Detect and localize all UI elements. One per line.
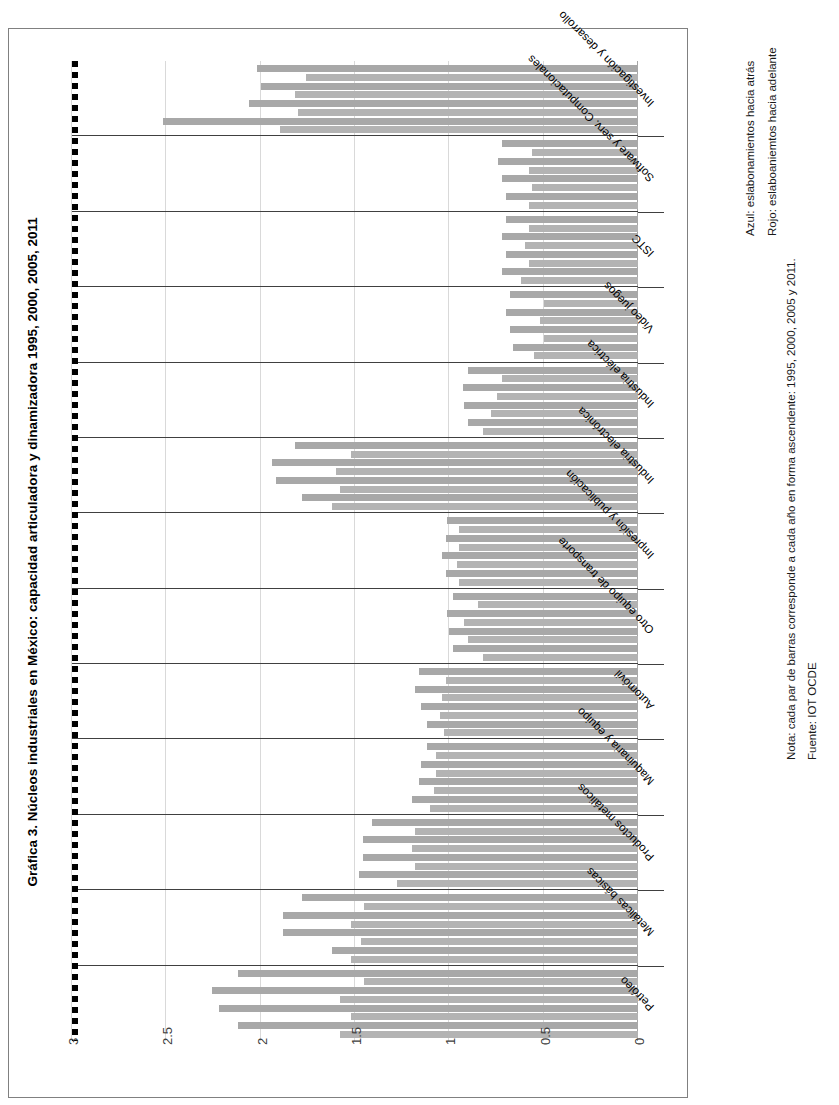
bar-autom-vil-2005-forward xyxy=(415,686,638,693)
bar-industria-electr-nica-2011-forward xyxy=(295,442,638,449)
bar-petr-leo-2005-back xyxy=(340,996,638,1003)
chart-source: Fuente: IOT OCDE xyxy=(806,662,818,760)
bar-met-licas-b-sicas-2005-back xyxy=(351,921,638,928)
bar-impresi-n-y-publicaci-n-2000-back xyxy=(457,561,638,568)
category-separator xyxy=(72,135,638,136)
gridline-2_5 xyxy=(165,61,166,1041)
chart-canvas xyxy=(72,61,638,1041)
bar-met-licas-b-sicas-1995-back xyxy=(351,956,638,963)
bar-software-y-serv-computacionales-2000-back xyxy=(532,184,638,191)
bar-met-licas-b-sicas-2005-forward xyxy=(283,912,638,919)
bar-impresi-n-y-publicaci-n-1995-forward xyxy=(446,570,638,577)
category-separator xyxy=(72,965,638,966)
bar-industria-el-ctrica-1995-forward xyxy=(468,419,638,426)
bar-otro-equipo-de-transporte-1995-forward xyxy=(453,645,638,652)
bar-met-licas-b-sicas-2000-forward xyxy=(283,929,638,936)
gridline-2 xyxy=(260,61,261,1041)
value-tick-0: 0 xyxy=(632,1038,647,1045)
bar-maquinaria-y-equipo-2011-back xyxy=(436,752,638,759)
bar-productos-met-licos-2011-forward xyxy=(372,819,638,826)
bar-software-y-serv-computacionales-2005-back xyxy=(529,167,638,174)
figure-page: Gráfica 3. Núcleos industriales en Méxic… xyxy=(0,0,839,1105)
bar-productos-met-licos-2005-forward xyxy=(363,836,638,843)
bar-video-juegos-2000-forward xyxy=(510,326,638,333)
bar-industria-el-ctrica-2005-back xyxy=(497,393,639,400)
category-tick-mark xyxy=(638,513,664,514)
bar-istc-2000-forward xyxy=(506,251,638,258)
legend-forward-label: Rojo: eslaboaniemtos hacia adelante xyxy=(766,47,778,236)
category-separator xyxy=(72,437,638,438)
bar-investigaci-n-y-desarrollo-2011-back xyxy=(306,74,638,81)
category-tick-mark xyxy=(638,815,664,816)
bar-maquinaria-y-equipo-2000-forward xyxy=(419,778,638,785)
category-tick-mark xyxy=(638,136,664,137)
value-tick-2_5: 2.5 xyxy=(160,1027,175,1045)
category-separator xyxy=(72,588,638,589)
bar-industria-electr-nica-2005-back xyxy=(336,468,638,475)
bar-petr-leo-1995-forward xyxy=(238,1022,638,1029)
bar-petr-leo-2000-back xyxy=(351,1013,638,1020)
bar-video-juegos-2005-forward xyxy=(506,309,638,316)
bar-investigaci-n-y-desarrollo-2005-forward xyxy=(261,83,638,90)
bar-software-y-serv-computacionales-2000-forward xyxy=(502,175,638,182)
bar-maquinaria-y-equipo-2000-back xyxy=(434,787,638,794)
category-separator xyxy=(72,211,638,212)
bar-istc-2011-forward xyxy=(506,216,638,223)
bar-petr-leo-2011-forward xyxy=(238,970,638,977)
bar-impresi-n-y-publicaci-n-2005-back xyxy=(459,544,638,551)
bar-productos-met-licos-2011-back xyxy=(415,828,638,835)
bar-autom-vil-2000-back xyxy=(440,712,638,719)
category-tick-mark xyxy=(638,363,664,364)
bar-autom-vil-2011-forward xyxy=(419,668,638,675)
value-tick-2: 2 xyxy=(255,1038,270,1045)
bar-met-licas-b-sicas-2011-back xyxy=(364,903,638,910)
bar-istc-2005-forward xyxy=(502,233,638,240)
figure-title: Gráfica 3. Núcleos industriales en Méxic… xyxy=(25,247,40,887)
bar-otro-equipo-de-transporte-2000-forward xyxy=(449,628,638,635)
bar-petr-leo-2000-forward xyxy=(219,1005,638,1012)
category-separator xyxy=(72,663,638,664)
bar-met-licas-b-sicas-2011-forward xyxy=(302,894,638,901)
bar-productos-met-licos-2005-back xyxy=(412,845,638,852)
category-separator xyxy=(72,286,638,287)
bar-software-y-serv-computacionales-1995-forward xyxy=(506,193,638,200)
category-separator xyxy=(72,814,638,815)
category-tick-mark xyxy=(638,890,664,891)
bar-maquinaria-y-equipo-2005-forward xyxy=(421,761,638,768)
bar-investigaci-n-y-desarrollo-2011-forward xyxy=(257,65,638,72)
bar-industria-el-ctrica-1995-back xyxy=(483,428,638,435)
bar-video-juegos-2005-back xyxy=(540,317,638,324)
value-tick-0_5: 0.5 xyxy=(538,1027,553,1045)
bar-istc-2005-back xyxy=(525,242,638,249)
category-tick-mark xyxy=(638,287,664,288)
bar-maquinaria-y-equipo-2005-back xyxy=(436,770,638,777)
category-separator xyxy=(72,362,638,363)
category-tick-mark xyxy=(638,966,664,967)
category-separator xyxy=(72,512,638,513)
value-tick-3: 3 xyxy=(66,1038,81,1045)
bar-istc-1995-back xyxy=(521,277,638,284)
bar-investigaci-n-y-desarrollo-1995-back xyxy=(280,126,638,133)
bar-productos-met-licos-2000-forward xyxy=(363,854,638,861)
bar-otro-equipo-de-transporte-1995-back xyxy=(483,654,638,661)
bar-industria-el-ctrica-2005-forward xyxy=(463,384,638,391)
bar-autom-vil-2011-back xyxy=(446,677,638,684)
reference-line-1 xyxy=(72,61,78,1041)
bar-met-licas-b-sicas-2000-back xyxy=(361,938,638,945)
bar-software-y-serv-computacionales-1995-back xyxy=(529,202,638,209)
category-tick-mark xyxy=(638,664,664,665)
bar-industria-el-ctrica-2000-back xyxy=(491,410,638,417)
bar-istc-1995-forward xyxy=(502,268,638,275)
bar-autom-vil-2000-forward xyxy=(421,703,638,710)
bar-istc-2011-back xyxy=(529,225,638,232)
bar-petr-leo-2011-back xyxy=(364,978,638,985)
category-tick-mark xyxy=(638,212,664,213)
category-tick-mark xyxy=(638,438,664,439)
bar-video-juegos-1995-forward xyxy=(513,344,638,351)
bar-productos-met-licos-2000-back xyxy=(415,863,638,870)
bar-otro-equipo-de-transporte-2005-forward xyxy=(447,610,638,617)
bar-petr-leo-1995-back xyxy=(340,1031,638,1038)
bar-impresi-n-y-publicaci-n-2011-back xyxy=(459,526,638,533)
bar-otro-equipo-de-transporte-2000-back xyxy=(468,636,638,643)
bar-met-licas-b-sicas-1995-forward xyxy=(332,947,638,954)
